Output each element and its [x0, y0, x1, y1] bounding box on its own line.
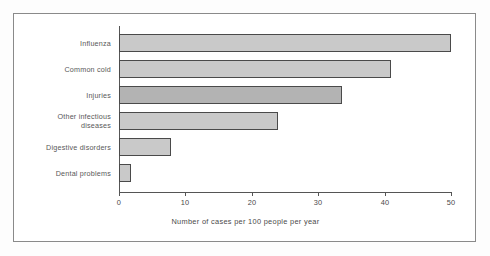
x-tick: [318, 192, 319, 196]
x-axis-title: Number of cases per 100 people per year: [14, 217, 477, 226]
x-tick-label-10: 10: [181, 198, 190, 207]
category-label-injuries: Injuries: [0, 91, 111, 100]
x-tick: [451, 192, 452, 196]
bar-row: Digestive disorders: [119, 138, 451, 156]
x-tick: [185, 192, 186, 196]
category-label-common-cold: Common cold: [0, 65, 111, 74]
x-tick-label-0: 0: [117, 198, 121, 207]
x-tick-label-50: 50: [447, 198, 456, 207]
category-label-digestive-disorders: Digestive disorders: [0, 143, 111, 152]
x-tick: [252, 192, 253, 196]
x-tick: [385, 192, 386, 196]
bar-row: Injuries: [119, 86, 451, 104]
x-axis-line: [119, 192, 451, 193]
x-tick-label-20: 20: [248, 198, 257, 207]
category-label-other-infectious-diseases: Other infectious diseases: [0, 112, 111, 130]
x-tick: [119, 192, 120, 196]
bar-injuries: [119, 86, 342, 104]
bar-row: Other infectious diseases: [119, 112, 451, 130]
bar-row: Common cold: [119, 60, 451, 78]
bar-other-infectious-diseases: [119, 112, 278, 130]
category-label-influenza: Influenza: [0, 39, 111, 48]
bar-digestive-disorders: [119, 138, 171, 156]
bar-common-cold: [119, 60, 391, 78]
bar-row: Influenza: [119, 34, 451, 52]
chart-figure: Influenza Common cold Injuries Other inf…: [0, 0, 490, 256]
bar-influenza: [119, 34, 451, 52]
category-label-dental-problems: Dental problems: [0, 169, 111, 178]
x-tick-label-40: 40: [381, 198, 390, 207]
x-tick-label-30: 30: [314, 198, 323, 207]
chart-frame: Influenza Common cold Injuries Other inf…: [13, 13, 476, 242]
bar-row: Dental problems: [119, 164, 451, 182]
bar-dental-problems: [119, 164, 131, 182]
